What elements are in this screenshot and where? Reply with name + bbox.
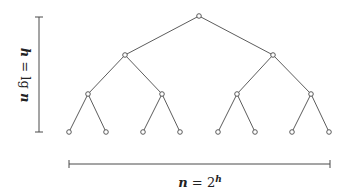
tree-node <box>86 92 91 97</box>
leaf-node <box>290 130 295 135</box>
binary-tree-diagram <box>0 0 349 196</box>
tree-node <box>160 92 165 97</box>
exponent: h <box>215 174 222 184</box>
tree-node <box>271 53 276 58</box>
equals-sign: = <box>188 175 207 190</box>
lg-func: lg <box>18 76 33 88</box>
leaf-node <box>178 130 183 135</box>
height-label: h = lg n <box>18 48 33 103</box>
width-dimension-bar <box>69 160 330 168</box>
base: 2 <box>207 175 215 190</box>
leaf-node <box>104 130 109 135</box>
tree-edges <box>69 16 329 132</box>
leaf-node <box>253 130 258 135</box>
root-node <box>197 14 202 19</box>
leaf-node <box>216 130 221 135</box>
equals-sign: = <box>18 57 33 76</box>
leaf-node <box>141 130 146 135</box>
leaf-node <box>327 130 332 135</box>
leaf-node <box>67 130 72 135</box>
height-arg: n <box>18 93 33 102</box>
tree-node <box>123 53 128 58</box>
tree-node <box>309 92 314 97</box>
width-label: n = 2h <box>178 174 221 190</box>
tree-node <box>235 92 240 97</box>
height-dimension-bar <box>35 17 43 132</box>
